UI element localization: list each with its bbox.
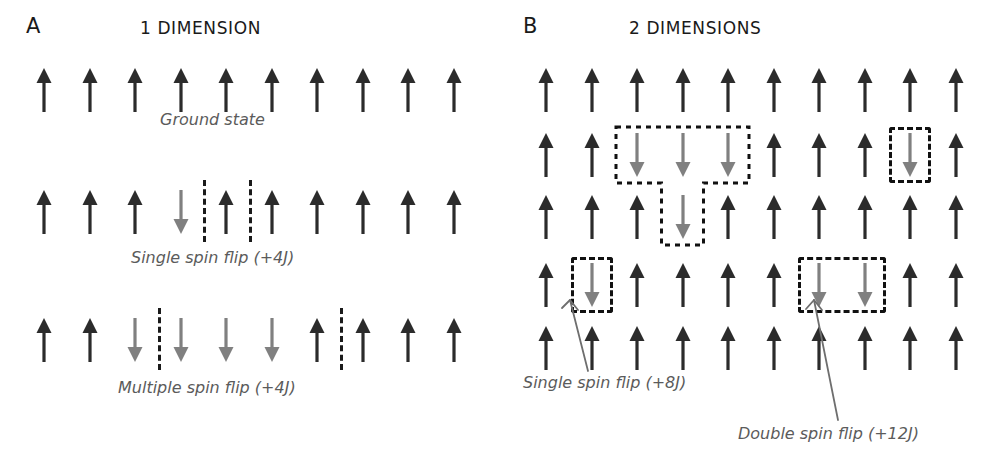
- spin-up-a-r0-c4: [215, 67, 237, 113]
- spin-up-a-r1-c4: [215, 189, 237, 235]
- panel-2-dimensions: B 2 DIMENSIONS Single spin flip (+8J) Do…: [497, 0, 994, 467]
- spin-up-a-r1-c0: [33, 189, 55, 235]
- caption-single-spin-flip: Single spin flip (+4J): [131, 248, 294, 267]
- spin-up-a-r0-c7: [352, 67, 374, 113]
- panel-a-letter: A: [26, 14, 41, 38]
- spin-up-a-r2-c0: [33, 317, 55, 363]
- spin-down-a-r2-c2: [124, 317, 146, 363]
- spin-up-a-r0-c2: [124, 67, 146, 113]
- spin-up-a-r1-c6: [306, 189, 328, 235]
- spin-up-a-r0-c6: [306, 67, 328, 113]
- domain-wall-a-r2-0: [158, 308, 161, 370]
- single-flip-cluster-row4: [571, 257, 613, 313]
- spin-up-a-r2-c6: [306, 317, 328, 363]
- spin-up-a-r2-c1: [79, 317, 101, 363]
- spin-up-a-r1-c9: [443, 189, 465, 235]
- panel-a-title: 1 DIMENSION: [140, 18, 261, 38]
- domain-wall-a-r1-0: [203, 180, 206, 242]
- panel-1-dimension: A 1 DIMENSION Ground state Single spin f…: [0, 0, 497, 467]
- t-shaped-cluster: [497, 0, 994, 467]
- domain-wall-a-r1-1: [249, 180, 252, 242]
- spin-up-a-r1-c8: [397, 189, 419, 235]
- spin-up-a-r2-c7: [352, 317, 374, 363]
- spin-up-a-r0-c3: [170, 67, 192, 113]
- spin-up-a-r1-c2: [124, 189, 146, 235]
- caption-multiple-spin-flip: Multiple spin flip (+4J): [118, 378, 296, 397]
- double-flip-cluster-row4: [798, 257, 886, 313]
- spin-up-a-r1-c5: [261, 189, 283, 235]
- spin-down-a-r1-c3: [170, 189, 192, 235]
- annotation-double-spin-flip-12j: Double spin flip (+12J): [738, 424, 919, 443]
- spin-up-a-r0-c5: [261, 67, 283, 113]
- spin-up-a-r1-c1: [79, 189, 101, 235]
- spin-down-a-r2-c3: [170, 317, 192, 363]
- spin-up-a-r1-c7: [352, 189, 374, 235]
- spin-down-a-r2-c5: [261, 317, 283, 363]
- caption-ground-state: Ground state: [160, 110, 265, 129]
- spin-up-a-r0-c8: [397, 67, 419, 113]
- spin-up-a-r2-c8: [397, 317, 419, 363]
- spin-up-a-r2-c9: [443, 317, 465, 363]
- spin-up-a-r0-c0: [33, 67, 55, 113]
- single-flip-cluster-row2: [889, 127, 931, 183]
- domain-wall-a-r2-1: [340, 308, 343, 370]
- spin-up-a-r0-c1: [79, 67, 101, 113]
- annotation-single-spin-flip-8j: Single spin flip (+8J): [523, 373, 686, 392]
- spin-down-a-r2-c4: [215, 317, 237, 363]
- spin-up-a-r0-c9: [443, 67, 465, 113]
